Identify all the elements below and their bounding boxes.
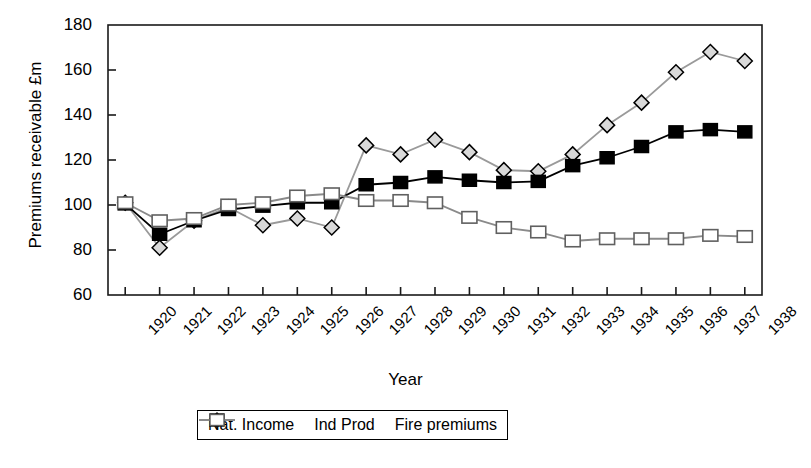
data-point-marker: [290, 190, 305, 202]
data-point-marker: [566, 160, 580, 172]
data-point-marker: [324, 220, 339, 235]
data-point-marker: [531, 175, 545, 187]
data-point-marker: [703, 45, 718, 60]
data-point-marker: [668, 233, 683, 245]
x-axis-title: Year: [0, 370, 811, 390]
data-point-marker: [428, 197, 443, 209]
data-point-marker: [462, 145, 477, 160]
data-point-marker: [703, 230, 718, 242]
legend-item-fire-premiums[interactable]: Fire premiums: [395, 416, 497, 434]
data-point-marker: [428, 132, 443, 147]
legend-label-ind-prod: Ind Prod: [314, 416, 374, 434]
plot-area: [0, 0, 811, 468]
data-point-marker: [737, 231, 752, 243]
data-point-marker: [187, 213, 202, 225]
data-point-marker: [221, 199, 236, 211]
data-point-marker: [462, 212, 477, 224]
plot-frame: [108, 25, 762, 295]
data-point-marker: [359, 179, 373, 191]
data-point-marker: [496, 163, 511, 178]
series-fire-premiums: [118, 188, 753, 247]
data-point-marker: [428, 171, 442, 183]
data-point-marker: [600, 152, 614, 164]
data-point-marker: [635, 141, 649, 153]
data-point-marker: [703, 124, 717, 136]
data-point-marker: [324, 188, 339, 200]
legend-item-ind-prod[interactable]: Ind Prod: [314, 416, 374, 434]
chart-container: Premiums receivable £m 60801001201401601…: [0, 0, 811, 468]
data-point-marker: [394, 177, 408, 189]
data-point-marker: [634, 233, 649, 245]
data-point-marker: [669, 126, 683, 138]
data-point-marker: [496, 222, 511, 234]
data-point-marker: [393, 147, 408, 162]
data-point-marker: [393, 195, 408, 207]
data-point-marker: [462, 174, 476, 186]
data-point-marker: [359, 138, 374, 153]
data-point-marker: [153, 228, 167, 240]
data-point-marker: [152, 215, 167, 227]
square-open-marker-icon: [198, 411, 236, 429]
legend-label-fire-premiums: Fire premiums: [395, 416, 497, 434]
data-point-marker: [497, 177, 511, 189]
series-nat-income: [118, 45, 753, 256]
data-point-marker: [565, 235, 580, 247]
data-point-marker: [255, 197, 270, 209]
data-point-marker: [737, 54, 752, 69]
data-point-marker: [531, 226, 546, 238]
data-point-marker: [118, 197, 133, 209]
data-point-marker: [290, 211, 305, 226]
data-point-marker: [359, 195, 374, 207]
data-point-marker: [600, 233, 615, 245]
data-point-marker: [738, 126, 752, 138]
chart-legend: Nat. Income Ind Prod Fire premiums: [197, 410, 508, 440]
data-point-marker: [255, 218, 270, 233]
series-line: [125, 52, 745, 248]
